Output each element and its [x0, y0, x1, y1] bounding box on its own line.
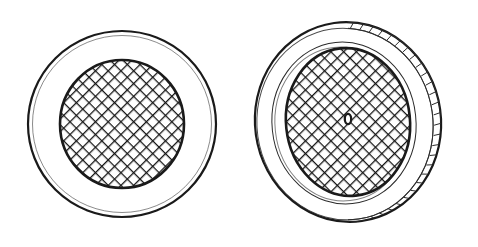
center-aperture-hole	[345, 114, 351, 124]
figure-sheet	[0, 0, 478, 247]
figure-left-plan-view	[28, 31, 216, 217]
drawing-canvas	[0, 0, 478, 247]
